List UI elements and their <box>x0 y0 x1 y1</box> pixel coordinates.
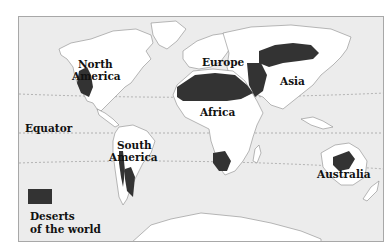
world-map-frame <box>18 16 384 242</box>
legend-desert-swatch <box>28 189 52 204</box>
label-equator: Equator <box>25 123 72 134</box>
label-asia: Asia <box>280 76 305 87</box>
new-zealand-land <box>363 181 379 201</box>
label-south-america-line1: South <box>117 140 152 151</box>
label-south-america-line2: America <box>109 152 158 163</box>
legend-label: Deserts of the world <box>30 210 101 236</box>
greenland-land <box>151 21 186 49</box>
madagascar-land <box>253 145 261 163</box>
landmasses <box>59 21 379 242</box>
label-europe: Europe <box>202 57 244 68</box>
legend-line-2: of the world <box>30 223 101 236</box>
legend-line-1: Deserts <box>30 210 101 223</box>
antarctica-land <box>131 213 321 242</box>
label-australia: Australia <box>317 169 371 180</box>
southeast-asia-islands <box>301 117 333 129</box>
central-america-land <box>97 109 119 127</box>
label-north-america-line2: America <box>72 71 121 82</box>
world-map <box>19 17 384 242</box>
label-north-america-line1: North <box>78 59 113 70</box>
label-africa: Africa <box>200 107 235 118</box>
